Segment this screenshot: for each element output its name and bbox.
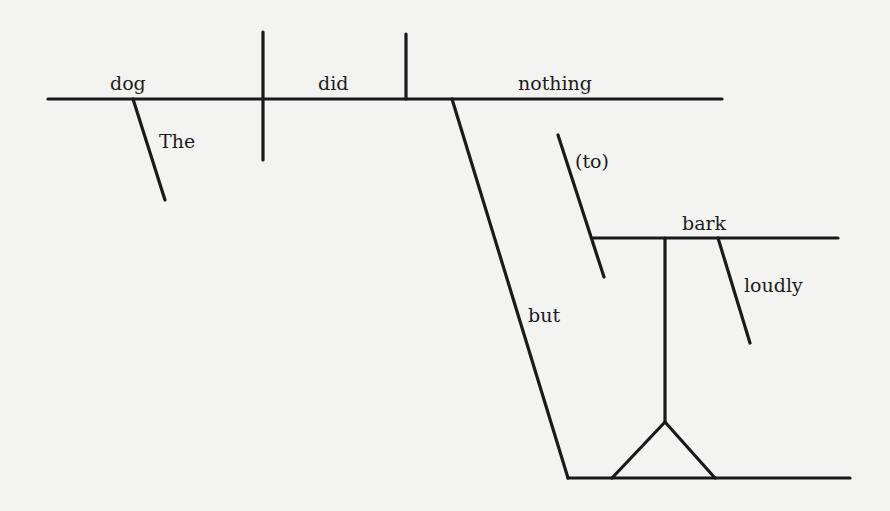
- word-subject-modifier: The: [159, 132, 195, 151]
- word-infinitive-marker: (to): [575, 152, 609, 171]
- fork-right-line: [665, 422, 715, 478]
- word-conjunction: but: [528, 306, 560, 325]
- fork-left-line: [612, 422, 665, 478]
- word-verb: did: [318, 74, 348, 93]
- word-object: nothing: [518, 74, 592, 93]
- but-connector-line: [452, 99, 568, 478]
- word-infinitive-verb: bark: [682, 214, 726, 233]
- word-adverb: loudly: [744, 276, 803, 295]
- word-subject: dog: [110, 74, 146, 93]
- diagram-page: dog The did nothing but (to) bark loudly: [0, 0, 890, 511]
